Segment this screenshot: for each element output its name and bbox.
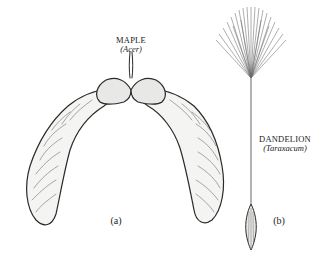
- maple-samara-drawing: [27, 52, 224, 225]
- maple-left-wing: [27, 88, 116, 225]
- maple-right-seed: [131, 78, 165, 104]
- maple-stem: [129, 52, 133, 78]
- dandelion-seed-drawing: [216, 7, 286, 250]
- panel-label-a: (a): [104, 216, 128, 226]
- dandelion-pappus: [216, 7, 286, 78]
- maple-left-seed: [97, 78, 131, 104]
- seed-dispersal-figure: MAPLE (Acer) DANDELION (Taraxacum) (a) (…: [0, 0, 321, 258]
- maple-right-wing: [136, 88, 224, 223]
- maple-scientific-name: (Acer): [114, 45, 148, 54]
- panel-label-b: (b): [267, 216, 291, 226]
- dandelion-scientific-name: (Taraxacum): [252, 144, 318, 153]
